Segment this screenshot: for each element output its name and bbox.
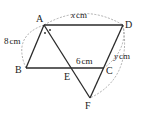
vertex-label-b: B: [15, 64, 22, 75]
vertex-label-f: F: [85, 100, 91, 111]
vertex-label-a: A: [36, 13, 44, 24]
measure-ab: 8cm: [4, 36, 21, 46]
parallelogram-diagram: A B C D E F 8cm xcm 6cm ycm: [0, 0, 151, 117]
vertex-label-c: C: [106, 65, 113, 76]
measure-ec: 6cm: [76, 56, 93, 66]
measure-ec-value: 6: [76, 56, 81, 66]
measure-ab-unit: cm: [10, 36, 21, 46]
side-ab: [26, 25, 44, 68]
measure-ec-unit: cm: [82, 56, 93, 66]
angle-mark-dot: [49, 29, 51, 31]
measure-ab-value: 8: [4, 36, 9, 46]
vertex-label-e: E: [64, 71, 70, 82]
measure-dc-unit: cm: [119, 51, 130, 61]
measure-ad-value: x: [70, 10, 75, 20]
measure-ad-unit: cm: [76, 10, 87, 20]
measure-dc: ycm: [113, 51, 130, 61]
measure-ad: xcm: [70, 10, 87, 20]
vertex-label-d: D: [125, 19, 132, 30]
measure-dc-value: y: [113, 51, 118, 61]
angle-mark-dot: [44, 32, 46, 34]
